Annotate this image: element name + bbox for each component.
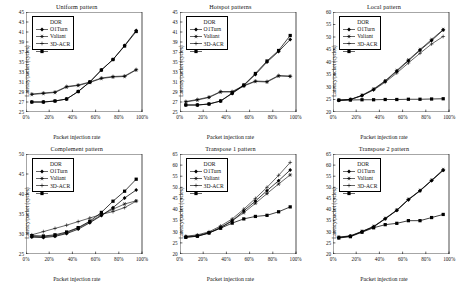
legend-item-dor: DOR [342,161,377,168]
legend-item-o1turn: O1Turn [35,26,70,33]
legend-marker-icon [189,183,203,190]
chart-legend: DORO1TurnValiant3D-ACR [339,16,381,50]
x-axis-label: Packet injection rate [154,276,308,282]
y-tick-label: 35 [10,59,24,65]
series-3d-acr [337,213,445,240]
legend-label: Valiant [50,33,66,40]
legend-label: DOR [204,161,216,168]
legend-marker-icon [189,168,203,175]
y-tick-label: 25 [317,96,331,102]
x-tick-label: 20% [41,114,57,120]
legend-label: 3D-ACR [204,183,224,190]
legend-marker-icon [35,183,49,190]
legend-label: DOR [204,19,216,26]
x-tick-label: 100% [441,114,457,120]
legend-item-valiant: Valiant [35,175,70,182]
y-tick-label: 35 [317,217,331,223]
legend-item-dor: DOR [342,19,377,26]
y-tick-label: 35 [164,59,178,65]
legend-item-3d-acr: 3D-ACR [189,40,224,47]
x-tick-label: 80% [111,114,127,120]
legend-marker-icon [35,26,49,33]
legend-label: O1Turn [50,168,68,175]
x-tick-label: 80% [264,114,280,120]
figure-six-panel-latency-charts: Uniform pattern Latency/packet (cycles) … [0,0,461,284]
x-tick-label: 60% [241,114,257,120]
legend-marker-icon [342,33,356,40]
x-tick-label: 60% [395,114,411,120]
x-tick-label: 60% [88,256,104,262]
x-tick-label: 40% [64,256,80,262]
y-tick-label: 55 [317,21,331,27]
y-tick-label: 45 [10,9,24,15]
y-tick-label: 55 [164,173,178,179]
legend-item-valiant: Valiant [189,33,224,40]
x-tick-label: 0% [172,114,188,120]
x-tick-label: 40% [372,256,388,262]
y-tick-label: 65 [317,151,331,157]
legend-item-3d-acr: 3D-ACR [342,40,377,47]
series-o1turn [30,68,138,96]
x-tick-label: 60% [88,114,104,120]
legend-marker-icon [189,33,203,40]
x-tick-label: 80% [418,256,434,262]
y-tick-label: 35 [10,211,24,217]
y-tick-label: 29 [164,89,178,95]
x-tick-label: 0% [172,256,188,262]
chart-panel-local: Local pattern Latency/packet (cycles) 20… [307,0,461,142]
y-tick-label: 60 [317,9,331,15]
plot-area: 202530354045505560650%20%40%60%80%100%DO… [180,154,298,254]
chart-row-bottom: Complement pattern Latency/packet (cycle… [0,142,461,284]
legend-item-o1turn: O1Turn [342,26,377,33]
legend-label: O1Turn [357,26,375,33]
legend-marker-icon [35,175,49,182]
chart-row-top: Uniform pattern Latency/packet (cycles) … [0,0,461,142]
y-tick-label: 25 [317,240,331,246]
x-tick-label: 0% [18,256,34,262]
legend-label: O1Turn [204,168,222,175]
legend-label: 3D-ACR [357,183,377,190]
series-valiant [30,68,138,96]
x-tick-label: 80% [111,256,127,262]
legend-item-valiant: Valiant [189,175,224,182]
legend-marker-icon [189,175,203,182]
x-tick-label: 0% [18,114,34,120]
legend-marker-icon [342,161,356,168]
y-tick-label: 55 [317,173,331,179]
legend-item-dor: DOR [35,19,70,26]
chart-panel-uniform: Uniform pattern Latency/packet (cycles) … [0,0,154,142]
legend-label: 3D-ACR [50,183,70,190]
legend-marker-icon [342,26,356,33]
y-tick-label: 30 [164,229,178,235]
legend-label: 3D-ACR [204,41,224,48]
series-3d-acr [337,97,445,102]
legend-item-o1turn: O1Turn [35,168,70,175]
legend-item-dor: DOR [189,19,224,26]
legend-marker-icon [189,161,203,168]
legend-label: DOR [50,161,62,168]
chart-panel-hotspot: Hotspot patterns Latency/packet (cycles)… [154,0,308,142]
y-tick-label: 31 [10,79,24,85]
legend-item-3d-acr: 3D-ACR [342,182,377,189]
legend-label: Valiant [50,175,66,182]
legend-item-valiant: Valiant [342,33,377,40]
legend-label: 3D-ACR [50,41,70,48]
y-tick-label: 41 [164,29,178,35]
x-tick-label: 40% [372,114,388,120]
y-tick-label: 40 [164,206,178,212]
chart-legend: DORO1TurnValiant3D-ACR [339,158,381,192]
y-tick-label: 25 [164,240,178,246]
legend-label: O1Turn [50,26,68,33]
x-tick-label: 80% [418,114,434,120]
x-axis-label: Packet injection rate [154,134,308,140]
legend-marker-icon [35,161,49,168]
y-tick-label: 30 [10,231,24,237]
legend-marker-icon [342,168,356,175]
x-tick-label: 40% [218,114,234,120]
y-tick-label: 60 [164,162,178,168]
chart-panel-complement: Complement pattern Latency/packet (cycle… [0,142,154,284]
y-tick-label: 27 [164,99,178,105]
y-tick-label: 50 [317,184,331,190]
series-o1turn [30,199,138,238]
series-valiant [183,74,291,104]
